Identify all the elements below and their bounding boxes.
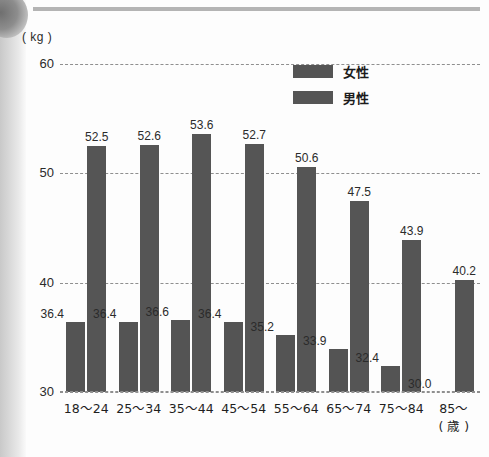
bar-value-label: 36.4 [198,307,221,321]
y-tick-label-50: 50 [26,165,54,180]
bar-value-label: 52.5 [85,130,108,144]
legend-label: 男性 [343,88,369,107]
legend-swatch-女性 [293,65,333,78]
bar-男性-55〜64 [297,167,316,392]
y-tick-label-60: 60 [26,56,54,71]
bar-女性-45〜54 [224,322,243,392]
y-tick-label-40: 40 [26,275,54,290]
bar-value-label: 33.9 [303,334,326,348]
bar-女性-75〜84 [381,366,400,392]
legend-label: 女性 [343,62,369,81]
bar-value-label: 47.5 [348,185,371,199]
bar-男性-25〜34 [140,145,159,392]
bar-男性-45〜54 [245,144,264,392]
x-category-label-65〜74: 65〜74 [326,398,371,417]
bar-value-label: 52.6 [138,129,161,143]
bar-value-label: 32.4 [356,351,379,365]
bar-value-label: 35.2 [251,320,274,334]
x-category-label-75〜84: 75〜84 [379,398,424,417]
x-category-label-55〜64: 55〜64 [274,398,319,417]
bar-value-label: 36.4 [93,307,116,321]
bar-value-label: 30.0 [408,377,431,391]
x-category-label-25〜34: 25〜34 [116,398,161,417]
legend: 女性男性 [293,62,369,114]
bar-女性-55〜64 [276,335,295,392]
bar-女性-35〜44 [171,320,190,392]
bar-value-label: 43.9 [400,224,423,238]
plot-area: 30405060 36.452.536.452.636.653.636.452.… [60,64,480,392]
x-category-label-45〜54: 45〜54 [221,398,266,417]
x-category-label-85〜: 85〜 [439,398,468,417]
chart-page: ( kg ) 30405060 36.452.536.452.636.653.6… [0,0,489,457]
bar-value-label: 50.6 [295,151,318,165]
bar-value-label: 52.7 [243,128,266,142]
bar-女性-25〜34 [119,322,138,392]
x-axis-unit-label: ( 歳 ) [438,416,469,435]
legend-item-男性: 男性 [293,88,369,107]
legend-swatch-男性 [293,91,333,104]
page-edge-shadow [0,0,26,457]
bar-value-label: 53.6 [190,118,213,132]
gridline-30 [60,392,480,393]
bar-value-label: 36.4 [41,307,64,321]
bar-value-label: 36.6 [146,305,169,319]
top-rule-divider [33,7,480,11]
bar-value-label: 40.2 [453,264,476,278]
y-tick-label-30: 30 [26,384,54,399]
bar-男性-85〜 [455,280,474,392]
bar-女性-65〜74 [329,349,348,392]
gridline-50 [60,173,480,174]
x-axis-baseline [60,391,480,392]
gridline-60 [60,64,480,65]
bar-男性-35〜44 [192,134,211,392]
x-category-label-18〜24: 18〜24 [64,398,109,417]
bar-男性-75〜84 [402,240,421,392]
bar-女性-18〜24 [66,322,85,392]
bar-男性-18〜24 [87,146,106,392]
legend-item-女性: 女性 [293,62,369,81]
x-category-label-35〜44: 35〜44 [169,398,214,417]
y-axis-unit-label: ( kg ) [22,30,52,44]
